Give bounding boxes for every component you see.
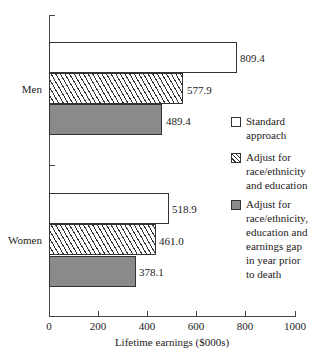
- legend-text: in year prior: [246, 253, 322, 267]
- x-axis: [49, 316, 296, 317]
- legend-text: approach: [246, 128, 322, 142]
- category-label-women: Women: [2, 234, 42, 246]
- value-label: 518.9: [172, 203, 197, 215]
- x-tick-label: 600: [188, 320, 205, 332]
- legend-swatch: [231, 153, 241, 163]
- value-label: 461.0: [159, 235, 184, 247]
- legend-text: race/ethnicity,: [246, 211, 322, 225]
- x-tick-label: 400: [139, 320, 156, 332]
- x-tick: [245, 311, 246, 316]
- legend-swatch: [231, 117, 241, 127]
- category-label-men: Men: [2, 83, 42, 95]
- bar-men-adjusted-earnings-gap: [49, 104, 162, 135]
- legend-text: Standard: [246, 114, 322, 128]
- x-axis-title: Lifetime earnings ($000s): [115, 336, 229, 348]
- x-tick-label: 1000: [284, 320, 306, 332]
- bar-women-adjusted-earnings-gap: [49, 256, 136, 287]
- legend-text: and education: [246, 178, 322, 192]
- legend-text: to death: [246, 267, 322, 281]
- x-tick-label: 200: [90, 320, 107, 332]
- bar-men-standard: [49, 42, 237, 73]
- value-label: 809.4: [240, 52, 265, 64]
- x-tick: [295, 311, 296, 316]
- x-tick: [196, 311, 197, 316]
- y-tick: [49, 165, 55, 166]
- legend-swatch: [231, 200, 241, 210]
- y-tick: [49, 15, 55, 16]
- legend-text: race/ethnicity: [246, 164, 322, 178]
- x-tick-label: 800: [237, 320, 254, 332]
- x-tick-label: 0: [46, 320, 52, 332]
- legend-text: earnings gap: [246, 239, 322, 253]
- value-label: 489.4: [166, 115, 191, 127]
- value-label: 577.9: [187, 84, 212, 96]
- value-label: 378.1: [139, 266, 164, 278]
- bar-women-standard: [49, 193, 169, 224]
- legend-text: Adjust for: [246, 197, 322, 211]
- bar-men-adjusted-education: [49, 73, 183, 104]
- legend-text: education and: [246, 225, 322, 239]
- legend-text: Adjust for: [246, 150, 322, 164]
- x-tick: [98, 311, 99, 316]
- x-tick: [147, 311, 148, 316]
- bar-women-adjusted-education: [49, 224, 156, 255]
